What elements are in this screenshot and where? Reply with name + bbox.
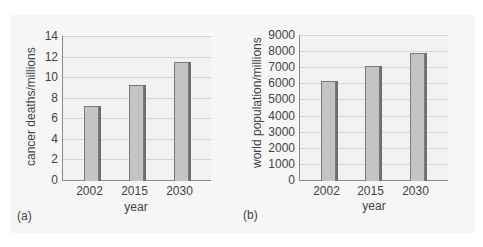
- y-tick-label: 5000: [255, 93, 295, 105]
- plot-area-a: [62, 36, 211, 181]
- y-axis-label-a: cancer deaths/millions: [24, 47, 38, 166]
- panel-label-b: (b): [243, 208, 258, 222]
- y-tick-label: 1000: [255, 158, 295, 170]
- bar-2002: [321, 81, 336, 181]
- y-tick-label: 12: [18, 51, 58, 63]
- y-tick-label: 0: [255, 174, 295, 186]
- bar-2015: [129, 85, 144, 181]
- y-tick-label: 10: [18, 71, 58, 83]
- gridline: [300, 35, 448, 36]
- bar-2015: [365, 66, 380, 181]
- gridline: [63, 36, 211, 37]
- x-axis-label-b: year: [344, 199, 404, 213]
- plot-area-b: [299, 35, 448, 181]
- y-tick-label: 2000: [255, 142, 295, 154]
- y-tick-label: 6: [18, 112, 58, 124]
- y-tick-label: 3000: [255, 126, 295, 138]
- gridline: [63, 57, 211, 58]
- x-tick-label: 2002: [307, 184, 347, 198]
- y-tick-label: 7000: [255, 61, 295, 73]
- y-tick-label: 2: [18, 153, 58, 165]
- y-tick-label: 8000: [255, 45, 295, 57]
- x-tick-label: 2015: [115, 184, 155, 198]
- y-tick-label: 4: [18, 133, 58, 145]
- bar-2030: [174, 62, 189, 181]
- bar-2030: [410, 53, 425, 181]
- x-tick-label: 2030: [160, 184, 200, 198]
- y-tick-label: 8: [18, 92, 58, 104]
- x-tick-label: 2015: [351, 184, 391, 198]
- y-tick-label: 0: [18, 174, 58, 186]
- panel-label-a: (a): [17, 209, 32, 223]
- bar-2002: [84, 106, 99, 181]
- x-axis-label-a: year: [106, 200, 166, 214]
- x-tick-label: 2030: [396, 184, 436, 198]
- y-tick-label: 9000: [255, 29, 295, 41]
- y-tick-label: 4000: [255, 110, 295, 122]
- gridline: [300, 51, 448, 52]
- y-tick-label: 14: [18, 30, 58, 42]
- x-tick-label: 2002: [70, 184, 110, 198]
- y-tick-label: 6000: [255, 77, 295, 89]
